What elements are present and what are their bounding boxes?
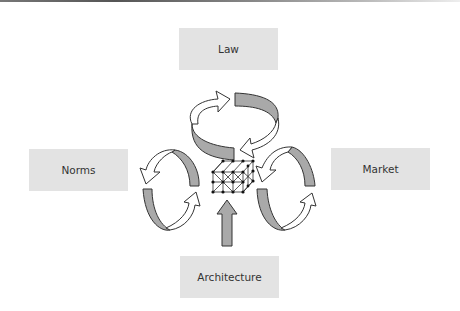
norms-cycle-arrows-icon (140, 150, 200, 230)
lattice-grid-icon (211, 159, 254, 193)
diagram-arrows (0, 0, 460, 311)
market-cycle-arrows-icon (256, 147, 316, 230)
law-cycle-arrows-icon (190, 91, 278, 160)
up-arrow-icon (217, 200, 237, 246)
